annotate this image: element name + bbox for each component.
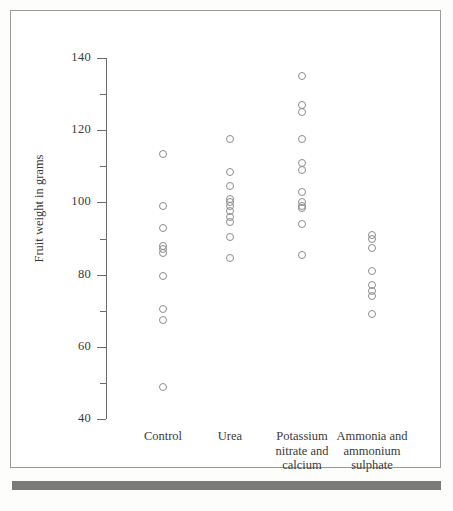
data-point: [159, 383, 167, 391]
data-point: [159, 150, 167, 158]
data-point: [159, 316, 167, 324]
data-point: [159, 202, 167, 210]
data-point: [226, 233, 234, 241]
data-point: [159, 272, 167, 280]
x-axis-label-line: Ammonia and: [317, 429, 427, 444]
y-tick-label: 80: [45, 267, 91, 282]
y-tick-label: 100: [45, 194, 91, 209]
y-tick-minor: [100, 239, 106, 240]
y-tick-minor: [100, 166, 106, 167]
data-point: [226, 168, 234, 176]
data-point: [298, 220, 306, 228]
chart-frame: 140120100806040 Fruit weight in grams Co…: [10, 10, 441, 468]
data-point: [368, 244, 376, 252]
data-point: [298, 135, 306, 143]
data-point: [368, 292, 376, 300]
y-tick-label: 40: [45, 411, 91, 426]
y-tick-major: [97, 419, 106, 420]
y-tick-major: [97, 275, 106, 276]
data-point: [226, 254, 234, 262]
footer-bar: [12, 481, 441, 490]
data-point: [298, 204, 306, 212]
data-point: [368, 235, 376, 243]
data-point: [159, 224, 167, 232]
y-tick-major: [97, 130, 106, 131]
chart-page: 140120100806040 Fruit weight in grams Co…: [0, 0, 453, 511]
data-point: [226, 135, 234, 143]
y-tick-label: 60: [45, 339, 91, 354]
data-point: [159, 305, 167, 313]
y-tick-minor: [100, 311, 106, 312]
y-tick-minor: [100, 383, 106, 384]
y-axis-title: Fruit weight in grams: [32, 119, 47, 299]
y-tick-major: [97, 202, 106, 203]
y-tick-major: [97, 58, 106, 59]
data-point: [368, 267, 376, 275]
data-point: [298, 166, 306, 174]
y-tick-major: [97, 347, 106, 348]
data-point: [368, 310, 376, 318]
data-point: [159, 249, 167, 257]
x-axis-label-line: sulphate: [317, 458, 427, 473]
data-point: [298, 188, 306, 196]
data-point: [298, 72, 306, 80]
data-point: [226, 218, 234, 226]
x-axis-label-line: ammonium: [317, 444, 427, 459]
y-tick-label: 120: [45, 122, 91, 137]
data-point: [226, 182, 234, 190]
y-tick-minor: [100, 94, 106, 95]
data-point: [298, 108, 306, 116]
y-tick-label: 140: [45, 50, 91, 65]
x-axis-label-4: Ammonia andammoniumsulphate: [317, 429, 427, 473]
data-point: [298, 251, 306, 259]
plot-area: 140120100806040 Fruit weight in grams Co…: [11, 11, 442, 469]
y-axis-line: [106, 58, 107, 419]
